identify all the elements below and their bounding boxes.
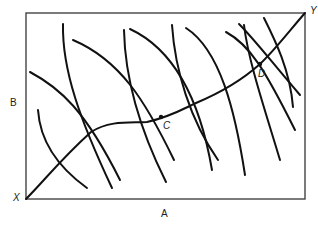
origin-x-label: X <box>13 193 20 203</box>
point-d-label: D <box>258 69 265 79</box>
x-curve-6 <box>130 29 212 170</box>
x-curve-1 <box>38 110 87 188</box>
axis-a-label: A <box>161 209 168 219</box>
x-curve-8 <box>186 28 245 175</box>
point-d-marker <box>258 62 262 66</box>
x-curve-3 <box>63 24 112 188</box>
point-c-marker <box>159 115 163 119</box>
x-curve-4 <box>73 40 174 160</box>
point-c-label: C <box>163 121 170 131</box>
axis-b-label: B <box>10 98 17 108</box>
diagram-canvas <box>0 0 318 230</box>
origin-y-label: Y <box>310 6 317 16</box>
edgeworth-box-diagram: X Y A B C D <box>0 0 318 230</box>
x-curve-11 <box>239 24 300 95</box>
indifference-curves <box>30 18 300 188</box>
x-curve-7 <box>172 25 218 160</box>
